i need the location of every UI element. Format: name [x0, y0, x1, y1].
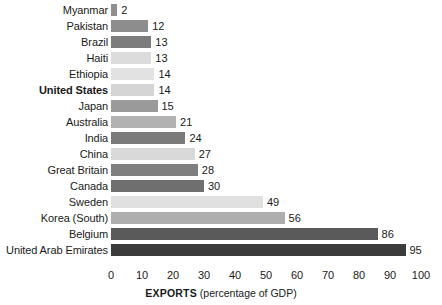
chart-row: Korea (South)56: [0, 210, 442, 226]
bar-value-label: 15: [162, 98, 174, 114]
category-label: United Arab Emirates: [6, 242, 108, 258]
category-label: Belgium: [69, 226, 108, 242]
x-tick-label: 20: [167, 268, 179, 282]
bar: [111, 132, 185, 144]
category-label: Sweden: [69, 194, 108, 210]
x-tick-label: 50: [260, 268, 272, 282]
bar: [111, 164, 198, 176]
x-tick-label: 60: [291, 268, 303, 282]
x-tick-label: 40: [229, 268, 241, 282]
chart-row: United Arab Emirates95: [0, 242, 442, 258]
bar: [111, 180, 204, 192]
bar-value-label: 56: [289, 210, 301, 226]
category-label: Haiti: [86, 50, 108, 66]
bar-value-label: 28: [202, 162, 214, 178]
x-tick-label: 80: [353, 268, 365, 282]
category-label: China: [80, 146, 108, 162]
bar: [111, 116, 176, 128]
chart-row: Sweden49: [0, 194, 442, 210]
bar: [111, 52, 151, 64]
chart-row: Brazil13: [0, 34, 442, 50]
category-label: Canada: [70, 178, 108, 194]
chart-row: Myanmar2: [0, 2, 442, 18]
chart-row: Ethiopia14: [0, 66, 442, 82]
chart-row: Great Britain28: [0, 162, 442, 178]
chart-row: Haiti13: [0, 50, 442, 66]
chart-row: Belgium86: [0, 226, 442, 242]
category-label: Pakistan: [67, 18, 108, 34]
bar-value-label: 12: [152, 18, 164, 34]
bar: [111, 100, 158, 112]
bar-value-label: 13: [155, 34, 167, 50]
category-label: Great Britain: [48, 162, 108, 178]
x-axis: 0102030405060708090100: [0, 268, 442, 284]
bar-value-label: 14: [158, 66, 170, 82]
category-label: Brazil: [81, 34, 108, 50]
bar: [111, 244, 406, 256]
x-tick-label: 70: [322, 268, 334, 282]
chart-row: Canada30: [0, 178, 442, 194]
category-label: United States: [39, 82, 108, 98]
bar: [111, 4, 117, 16]
bar: [111, 228, 378, 240]
bar-value-label: 21: [180, 114, 192, 130]
bar-value-label: 49: [267, 194, 279, 210]
category-label: Australia: [66, 114, 108, 130]
x-tick-label: 90: [384, 268, 396, 282]
bar-value-label: 27: [199, 146, 211, 162]
chart-row: Pakistan12: [0, 18, 442, 34]
chart-row: China27: [0, 146, 442, 162]
chart-row: India24: [0, 130, 442, 146]
bar: [111, 20, 148, 32]
x-tick-label: 10: [136, 268, 148, 282]
x-tick-label: 0: [108, 268, 114, 282]
bar: [111, 36, 151, 48]
chart-row: Australia21: [0, 114, 442, 130]
chart-row: Japan15: [0, 98, 442, 114]
bar: [111, 68, 154, 80]
category-label: India: [85, 130, 108, 146]
exports-bar-chart: Myanmar2Pakistan12Brazil13Haiti13Ethiopi…: [0, 0, 442, 305]
category-label: Japan: [79, 98, 108, 114]
bar-value-label: 24: [189, 130, 201, 146]
bar: [111, 212, 285, 224]
bar: [111, 148, 195, 160]
bar-value-label: 95: [410, 242, 422, 258]
x-tick-label: 30: [198, 268, 210, 282]
bar-value-label: 86: [382, 226, 394, 242]
bar: [111, 196, 263, 208]
bar-value-label: 13: [155, 50, 167, 66]
bar-value-label: 14: [158, 82, 170, 98]
category-label: Myanmar: [63, 2, 108, 18]
x-axis-title-soft: (percentage of GDP): [200, 287, 297, 299]
bar-value-label: 2: [121, 2, 127, 18]
chart-row: United States14: [0, 82, 442, 98]
category-label: Korea (South): [41, 210, 108, 226]
category-label: Ethiopia: [69, 66, 108, 82]
bar: [111, 84, 154, 96]
x-axis-title-strong: EXPORTS: [145, 287, 197, 299]
x-axis-title: EXPORTS (percentage of GDP): [0, 287, 442, 299]
x-tick-label: 100: [412, 268, 430, 282]
bar-value-label: 30: [208, 178, 220, 194]
